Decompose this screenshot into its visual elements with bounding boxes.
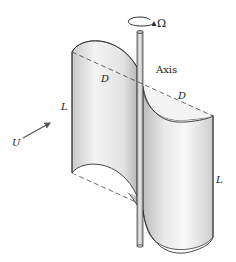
- length-label-left: L: [60, 101, 68, 112]
- axis-label: Axis: [155, 64, 177, 75]
- diameter-label-left: D: [100, 73, 109, 84]
- length-label-right: L: [215, 174, 223, 185]
- left-blade: [72, 41, 137, 205]
- wind-velocity-label: U: [12, 137, 21, 148]
- rotation-arrow-icon: [128, 17, 154, 26]
- wind-velocity-arrow-icon: [23, 123, 50, 138]
- omega-label: Ω: [157, 17, 166, 30]
- diameter-label-right: D: [177, 90, 186, 101]
- savonius-rotor-diagram: Ω Axis D D L L U: [0, 0, 236, 262]
- rotor-shaft: [137, 30, 143, 247]
- right-blade: [143, 86, 213, 253]
